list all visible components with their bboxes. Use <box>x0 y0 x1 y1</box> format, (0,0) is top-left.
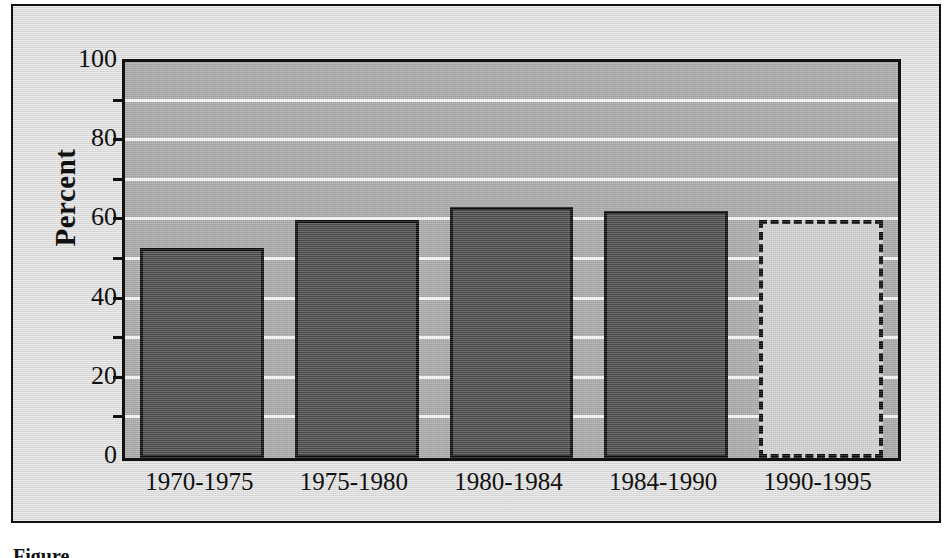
y-tick-mark <box>113 376 122 379</box>
bar-1970-1975 <box>140 248 264 458</box>
y-tick-mark <box>113 336 122 339</box>
figure-caption: Figure <box>13 545 69 558</box>
y-tick-mark <box>113 415 122 418</box>
y-tick-mark <box>113 99 122 102</box>
bar-1980-1984 <box>450 207 574 458</box>
bar-1975-1980 <box>295 220 419 458</box>
y-tick-label: 60 <box>59 204 117 230</box>
y-tick-mark <box>113 178 122 181</box>
y-tick-label: 80 <box>59 125 117 151</box>
x-tick-label: 1970-1975 <box>122 468 277 496</box>
x-axis-ticks: 1970-19751975-19801980-19841984-19901990… <box>122 468 901 504</box>
y-tick-mark <box>113 138 122 141</box>
gridline <box>125 178 898 181</box>
plot-area <box>122 59 901 461</box>
x-tick-label: 1984-1990 <box>586 468 741 496</box>
bar-1984-1990 <box>604 211 728 459</box>
bar-1990-1995 <box>759 220 883 458</box>
gridline <box>125 99 898 102</box>
y-tick-label: 0 <box>59 442 117 468</box>
x-tick-label: 1990-1995 <box>740 468 895 496</box>
y-axis-ticks: 020406080100 <box>47 59 117 461</box>
figure-panel: Percent 020406080100 1970-19751975-19801… <box>11 4 941 523</box>
y-tick-mark <box>113 217 122 220</box>
y-tick-label: 100 <box>59 46 117 72</box>
y-tick-mark <box>113 297 122 300</box>
y-tick-label: 20 <box>59 363 117 389</box>
gridline <box>125 138 898 141</box>
x-tick-label: 1975-1980 <box>277 468 432 496</box>
x-tick-label: 1980-1984 <box>431 468 586 496</box>
y-tick-label: 40 <box>59 284 117 310</box>
y-tick-mark <box>113 257 122 260</box>
